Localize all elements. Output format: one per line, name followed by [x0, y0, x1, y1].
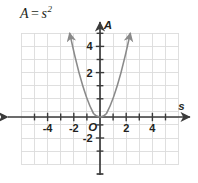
y-axis-label: A [103, 19, 112, 31]
y-tick-label-2: 2 [86, 67, 92, 79]
x-axis-label: s [178, 100, 184, 112]
x-tick-label--2: -2 [69, 122, 79, 134]
x-tick-label-4: 4 [149, 122, 156, 134]
y-tick-label--2: -2 [83, 132, 93, 144]
figure-coordinate-plane: A=s2 [0, 0, 198, 183]
x-tick-label-2: 2 [123, 122, 129, 134]
parabola-arrow-right [129, 33, 130, 39]
graph-svg: -4 -2 2 4 4 2 -2 O A s [0, 0, 198, 183]
origin-label: O [88, 121, 97, 133]
x-tick-label--4: -4 [43, 122, 54, 134]
y-tick-label-4: 4 [86, 40, 93, 52]
parabola-arrow-left [70, 33, 71, 39]
